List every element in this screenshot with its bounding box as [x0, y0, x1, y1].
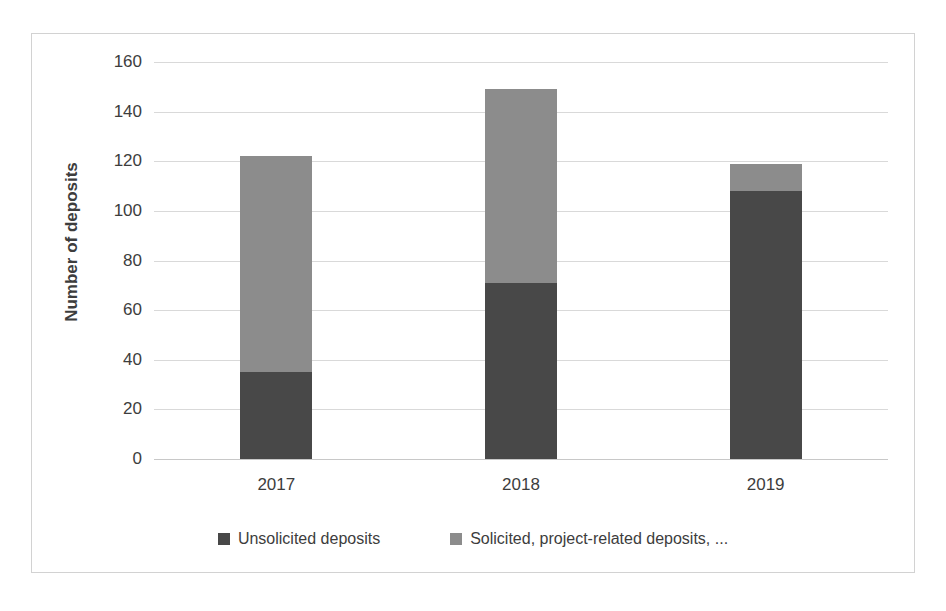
gridline: 160	[154, 62, 888, 63]
x-axis-tick-label: 2018	[502, 475, 540, 495]
chart-legend: Unsolicited depositsSolicited, project-r…	[32, 530, 914, 548]
y-axis-tick-label: 40	[123, 350, 142, 370]
y-axis-tick-label: 20	[123, 399, 142, 419]
legend-swatch-icon	[218, 533, 230, 545]
legend-item[interactable]: Unsolicited deposits	[218, 530, 380, 548]
bar-segment[interactable]	[730, 191, 802, 459]
gridline: 0	[154, 459, 888, 460]
plot-area: 020406080100120140160 201720182019	[154, 62, 888, 459]
bar-group[interactable]: 2018	[485, 89, 557, 459]
x-axis-tick-label: 2017	[257, 475, 295, 495]
y-axis-tick-label: 120	[114, 151, 142, 171]
chart-frame: Number of deposits 020406080100120140160…	[31, 33, 915, 573]
bar-group[interactable]: 2017	[240, 156, 312, 459]
legend-swatch-icon	[450, 533, 462, 545]
y-axis-tick-label: 140	[114, 102, 142, 122]
y-axis-tick-label: 160	[114, 52, 142, 72]
y-axis-tick-label: 60	[123, 300, 142, 320]
bar-segment[interactable]	[485, 283, 557, 459]
y-axis-tick-label: 0	[133, 449, 142, 469]
bar-segment[interactable]	[485, 89, 557, 283]
legend-label: Solicited, project-related deposits, ...	[470, 530, 728, 548]
legend-item[interactable]: Solicited, project-related deposits, ...	[450, 530, 728, 548]
bar-segment[interactable]	[240, 372, 312, 459]
bar-segment[interactable]	[730, 164, 802, 191]
legend-label: Unsolicited deposits	[238, 530, 380, 548]
y-axis-title: Number of deposits	[62, 142, 86, 342]
bar-segment[interactable]	[240, 156, 312, 372]
x-axis-tick-label: 2019	[747, 475, 785, 495]
y-axis-tick-label: 100	[114, 201, 142, 221]
y-axis-tick-label: 80	[123, 251, 142, 271]
bar-group[interactable]: 2019	[730, 164, 802, 459]
